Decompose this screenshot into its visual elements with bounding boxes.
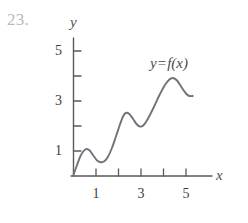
- x-tick-label-5: 5: [178, 186, 194, 202]
- graph-plot-canvas: [0, 0, 248, 223]
- curve-equation-rhs: f(x): [167, 55, 188, 71]
- figure-container: 23. y x 5 3 1 1 3 5 y=f(x): [0, 0, 248, 223]
- curve-equation-lhs: y: [150, 55, 157, 71]
- y-tick-label-1: 1: [48, 143, 62, 159]
- function-curve: [74, 78, 193, 175]
- y-axis-ticks: [74, 51, 82, 151]
- curve-equation-operator: =: [157, 55, 167, 71]
- y-tick-label-5: 5: [48, 43, 62, 59]
- curve-equation-label: y=f(x): [150, 55, 188, 72]
- y-axis-label: y: [70, 14, 77, 31]
- x-tick-label-3: 3: [133, 186, 149, 202]
- x-axis-label: x: [216, 167, 223, 184]
- y-tick-label-3: 3: [48, 93, 62, 109]
- x-axis-ticks: [96, 169, 186, 176]
- x-tick-label-1: 1: [88, 186, 104, 202]
